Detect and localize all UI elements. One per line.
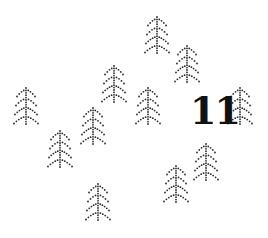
tree-icon [174,45,200,83]
tree-icon [80,107,106,145]
tree-icon [13,87,39,125]
tree-icon [85,183,111,221]
tree-count-label: 11 [190,92,239,130]
tree-icon [47,130,73,168]
tree-counting-scene: 11 [0,0,268,238]
tree-icon [101,65,127,103]
tree-icon [135,87,161,125]
tree-icon [163,165,189,203]
tree-icon [193,143,219,181]
tree-icon [144,16,170,54]
